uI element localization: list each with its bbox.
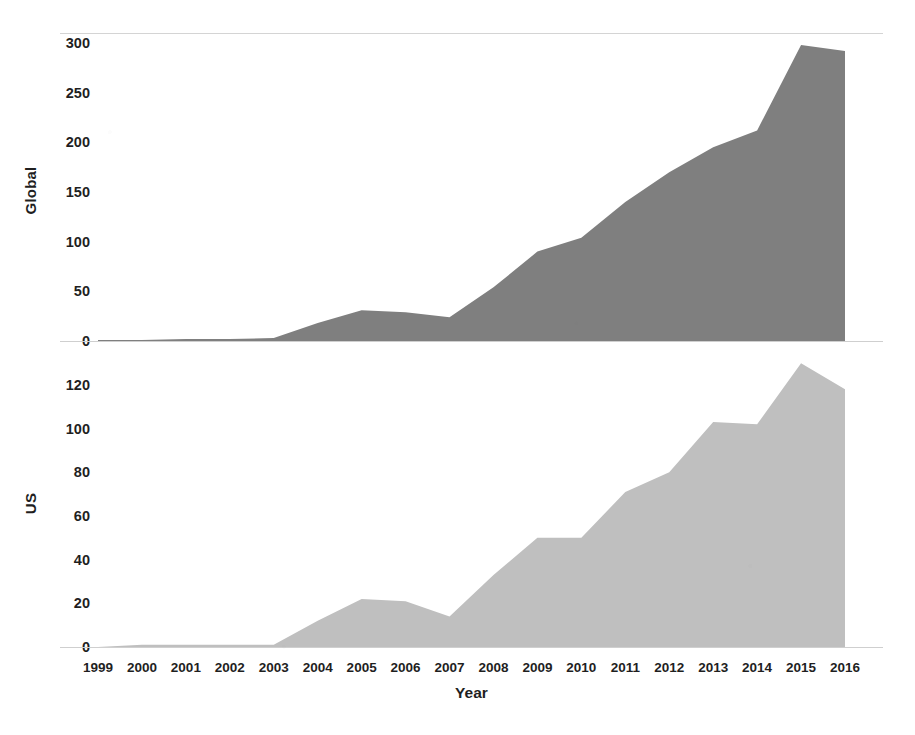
us-area-series bbox=[0, 350, 915, 735]
x-tick-2003: 2003 bbox=[259, 660, 289, 675]
x-tick-2014: 2014 bbox=[742, 660, 772, 675]
x-tick-2012: 2012 bbox=[654, 660, 684, 675]
x-tick-2004: 2004 bbox=[303, 660, 333, 675]
x-tick-2001: 2001 bbox=[171, 660, 201, 675]
us-panel: US 020406080100120 199920002001200220032… bbox=[0, 350, 915, 735]
x-tick-2008: 2008 bbox=[478, 660, 508, 675]
figure-area-charts: Global 050100150200250300 US 02040608010… bbox=[0, 0, 915, 735]
x-tick-2011: 2011 bbox=[611, 660, 640, 675]
x-axis-title: Year bbox=[68, 684, 875, 702]
x-tick-2000: 2000 bbox=[127, 660, 157, 675]
x-tick-2013: 2013 bbox=[698, 660, 728, 675]
x-tick-2007: 2007 bbox=[434, 660, 464, 675]
global-area-series bbox=[0, 0, 915, 350]
x-tick-2010: 2010 bbox=[566, 660, 596, 675]
x-tick-2006: 2006 bbox=[391, 660, 421, 675]
x-tick-2015: 2015 bbox=[786, 660, 816, 675]
global-panel: Global 050100150200250300 bbox=[0, 0, 915, 350]
x-tick-1999: 1999 bbox=[83, 660, 113, 675]
global-area-polygon bbox=[98, 45, 845, 341]
x-tick-2016: 2016 bbox=[830, 660, 860, 675]
x-tick-2005: 2005 bbox=[347, 660, 377, 675]
x-tick-2002: 2002 bbox=[215, 660, 245, 675]
us-area-polygon bbox=[98, 363, 845, 647]
x-tick-2009: 2009 bbox=[522, 660, 552, 675]
